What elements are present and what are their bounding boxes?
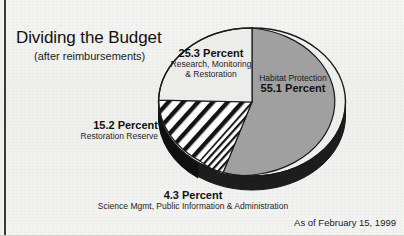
slice-percent-research: 25.3 Percent bbox=[162, 48, 260, 59]
pie-chart bbox=[152, 2, 352, 202]
slice-percent-habitat: 55.1 Percent bbox=[238, 83, 348, 94]
left-border-rule bbox=[4, 0, 6, 236]
slice-percent-reserve: 15.2 Percent bbox=[40, 120, 158, 131]
slice-name-science: Science Mgmt, Public Information & Admin… bbox=[88, 201, 298, 211]
slice-name-reserve: Restoration Reserve bbox=[40, 131, 158, 141]
slice-label-science-mgmt: 4.3 Percent Science Mgmt, Public Informa… bbox=[88, 190, 298, 211]
slice-label-habitat: Habitat Protection 55.1 Percent bbox=[238, 73, 348, 94]
slice-label-restoration-reserve: 15.2 Percent Restoration Reserve bbox=[40, 120, 158, 141]
chart-footnote: As of February 15, 1999 bbox=[294, 217, 396, 228]
budget-pie-chart-figure: Dividing the Budget (after reimbursement… bbox=[0, 0, 404, 236]
slice-name-research-line1: Research, Monitoring bbox=[162, 59, 260, 69]
bottom-border-rule bbox=[0, 235, 404, 236]
pie-svg bbox=[152, 2, 352, 202]
slice-percent-science: 4.3 Percent bbox=[88, 190, 298, 201]
